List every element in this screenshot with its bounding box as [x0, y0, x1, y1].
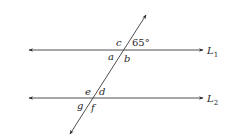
- angle-label-d: d: [99, 86, 105, 97]
- line-l2-label: L2: [206, 93, 218, 107]
- angle-label-a: a: [108, 51, 114, 62]
- angle-label-g: g: [77, 100, 83, 111]
- angle-label-b: b: [124, 53, 130, 64]
- parallel-lines-diagram: L1 L2 c 65° a b e d g f: [0, 0, 233, 139]
- line-l1-subscript: 1: [214, 51, 218, 59]
- line-l2-subscript: 2: [214, 99, 218, 107]
- line-l1-label: L1: [206, 45, 218, 59]
- angle-label-f: f: [90, 102, 97, 113]
- transversal-line: [70, 15, 146, 134]
- angle-label-e: e: [85, 86, 91, 97]
- angle-label-65-degrees: 65°: [132, 37, 150, 48]
- angle-label-c: c: [116, 37, 122, 48]
